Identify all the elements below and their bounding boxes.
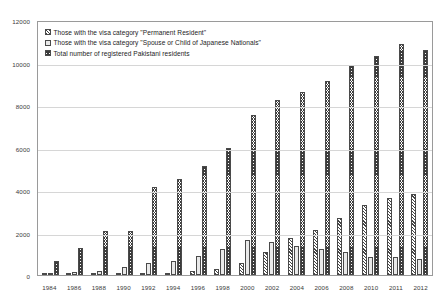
x-tick-label: 2011 (384, 280, 409, 298)
bar-group (334, 22, 359, 275)
legend-swatch-icon (45, 50, 51, 56)
bar-total_registered (177, 179, 182, 275)
bar-spouse_or_child (417, 259, 422, 275)
bar-permanent_resident (140, 273, 145, 275)
bar-permanent_resident (337, 218, 342, 275)
gridline (38, 65, 432, 66)
bar-group (358, 22, 383, 275)
bar-spouse_or_child (294, 246, 299, 275)
y-tick-label: 10000 (12, 60, 30, 67)
bar-spouse_or_child (48, 273, 53, 275)
y-axis: 020004000600080001000012000 (0, 21, 34, 276)
x-tick-label: 2004 (285, 280, 310, 298)
legend-swatch-icon (45, 40, 51, 46)
bar-spouse_or_child (393, 257, 398, 275)
bar-permanent_resident (362, 205, 367, 275)
legend-item: Those with the visa category "Spouse or … (45, 38, 261, 49)
bar-total_registered (226, 148, 231, 276)
bar-group (309, 22, 334, 275)
bar-spouse_or_child (343, 252, 348, 275)
bar-total_registered (325, 81, 330, 275)
bar-permanent_resident (263, 252, 268, 275)
bar-permanent_resident (116, 273, 121, 275)
x-tick-label: 1988 (87, 280, 112, 298)
legend-label: Those with the visa category "Permanent … (54, 29, 207, 36)
bar-total_registered (399, 44, 404, 275)
gridline (38, 150, 432, 151)
y-tick-label: 0 (26, 273, 30, 280)
x-tick-label: 2012 (408, 280, 433, 298)
bar-spouse_or_child (146, 263, 151, 275)
bar-chart: 020004000600080001000012000 198419861988… (0, 0, 440, 306)
legend-item: Total number of registered Pakistani res… (45, 48, 261, 59)
bar-spouse_or_child (269, 242, 274, 275)
x-tick-label: 2010 (359, 280, 384, 298)
bar-spouse_or_child (97, 271, 102, 275)
bar-total_registered (251, 115, 256, 275)
bar-total_registered (300, 92, 305, 275)
x-tick-label: 2002 (260, 280, 285, 298)
y-tick-label: 8000 (16, 103, 30, 110)
bar-total_registered (128, 231, 133, 275)
legend-swatch-icon (45, 29, 51, 35)
bar-permanent_resident (288, 238, 293, 275)
bar-group (407, 22, 432, 275)
y-tick-label: 6000 (16, 145, 30, 152)
bar-permanent_resident (165, 273, 170, 275)
x-tick-label: 1994 (161, 280, 186, 298)
x-axis: 1984198619881990199219941996199820002002… (37, 280, 433, 298)
bar-spouse_or_child (72, 272, 77, 275)
x-tick-label: 2006 (309, 280, 334, 298)
x-tick-label: 2000 (235, 280, 260, 298)
bar-permanent_resident (66, 273, 71, 275)
bar-group (383, 22, 408, 275)
bar-spouse_or_child (171, 261, 176, 275)
bar-group (284, 22, 309, 275)
bar-spouse_or_child (196, 256, 201, 275)
bar-total_registered (349, 65, 354, 275)
y-tick-label: 12000 (12, 18, 30, 25)
gridline (38, 235, 432, 236)
bar-total_registered (275, 100, 280, 275)
bar-spouse_or_child (122, 267, 127, 275)
x-tick-label: 1996 (186, 280, 211, 298)
bar-spouse_or_child (319, 249, 324, 275)
chart-legend: Those with the visa category "Permanent … (43, 25, 265, 62)
gridline (38, 192, 432, 193)
bar-total_registered (423, 50, 428, 275)
bar-spouse_or_child (245, 240, 250, 275)
bar-permanent_resident (91, 273, 96, 275)
legend-label: Total number of registered Pakistani res… (54, 50, 190, 57)
bar-total_registered (78, 248, 83, 275)
x-tick-label: 1986 (62, 280, 87, 298)
bar-permanent_resident (42, 273, 47, 275)
bar-permanent_resident (214, 269, 219, 275)
bar-total_registered (374, 56, 379, 275)
bar-permanent_resident (190, 271, 195, 275)
y-tick-label: 2000 (16, 230, 30, 237)
x-tick-label: 1984 (37, 280, 62, 298)
bar-total_registered (202, 166, 207, 275)
x-tick-label: 1990 (111, 280, 136, 298)
gridline (38, 107, 432, 108)
bar-spouse_or_child (368, 257, 373, 275)
bar-spouse_or_child (220, 249, 225, 275)
y-tick-label: 4000 (16, 188, 30, 195)
legend-item: Those with the visa category "Permanent … (45, 27, 261, 38)
bar-permanent_resident (239, 263, 244, 275)
bar-total_registered (103, 231, 108, 275)
legend-label: Those with the visa category "Spouse or … (54, 39, 261, 46)
bar-permanent_resident (313, 230, 318, 275)
x-tick-label: 1992 (136, 280, 161, 298)
x-tick-label: 2008 (334, 280, 359, 298)
bar-permanent_resident (387, 198, 392, 275)
bar-total_registered (54, 261, 59, 275)
bar-total_registered (152, 187, 157, 275)
x-tick-label: 1998 (210, 280, 235, 298)
